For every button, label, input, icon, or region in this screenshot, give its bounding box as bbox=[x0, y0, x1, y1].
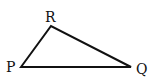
vertex-label-r: R bbox=[45, 9, 56, 25]
vertex-label-p: P bbox=[6, 59, 15, 75]
triangle-diagram: R P Q bbox=[0, 0, 153, 81]
triangle-pqr bbox=[21, 26, 131, 67]
vertex-label-q: Q bbox=[136, 61, 147, 77]
